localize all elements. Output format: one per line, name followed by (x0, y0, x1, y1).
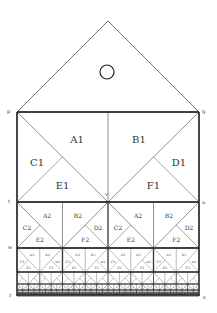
region-label-c1: C1 (30, 157, 44, 168)
sub-diagonal-left (63, 278, 69, 284)
point-label-t: t (8, 199, 10, 204)
point-label-v: v (105, 192, 108, 197)
roof-triangle (17, 21, 199, 112)
region-label-e3: E3 (26, 266, 30, 270)
region-label-a3: A3 (165, 253, 170, 257)
region-label-d2: D2 (185, 224, 194, 231)
region-label-f1: F1 (147, 180, 160, 191)
sub-diagonal-right (151, 287, 154, 290)
region-label-e3: E3 (72, 266, 76, 270)
sub-diagonal-right (94, 287, 97, 290)
sub-diagonal-left (51, 287, 54, 290)
subdivision-levels (17, 112, 199, 296)
region-label-a3: A3 (74, 253, 79, 257)
sub-diagonal-left (40, 287, 43, 290)
region-label-e2: E2 (36, 236, 44, 243)
vertex-v-dot (106, 201, 109, 204)
region-label-c3: C3 (65, 260, 69, 264)
sub-diagonal-left (154, 278, 160, 284)
region-label-e3: E3 (163, 266, 167, 270)
region-label-c3: C3 (156, 260, 160, 264)
sub-diagonal-left (142, 287, 145, 290)
level-5 (17, 284, 199, 290)
level-8 (17, 295, 199, 297)
sub-diagonal-left (131, 287, 134, 290)
point-label-s: s (203, 295, 206, 300)
sub-diagonal-left (63, 287, 66, 290)
sub-diagonal-right (80, 278, 86, 284)
region-label-f3: F3 (140, 266, 144, 270)
region-label-b3: B3 (45, 253, 49, 257)
region-label-f3: F3 (186, 266, 190, 270)
level-6 (17, 290, 199, 293)
sub-diagonal-right (128, 287, 131, 290)
sub-diagonal-right (185, 287, 188, 290)
sub-diagonal-right (26, 287, 29, 290)
sub-diagonal-right (117, 287, 120, 290)
sub-diagonal-left (176, 278, 182, 284)
sub-diagonal-right (102, 278, 108, 284)
point-label-r: r (9, 293, 11, 298)
sub-diagonal-left (108, 287, 111, 290)
point-label-p: p (7, 109, 10, 114)
sub-diagonal-right (34, 278, 40, 284)
sub-diagonal-left (131, 278, 137, 284)
region-label-a1: A1 (69, 134, 84, 145)
sub-diagonal-left (85, 287, 88, 290)
sub-diagonal-left (85, 278, 91, 284)
level-3 (17, 248, 199, 272)
sub-diagonal-left (28, 287, 31, 290)
sub-diagonal-left (188, 287, 191, 290)
region-label-e2: E2 (127, 236, 135, 243)
sub-diagonal-right (48, 287, 51, 290)
region-label-b1: B1 (132, 134, 146, 145)
region-label-e3: E3 (117, 266, 121, 270)
point-label-q: q (202, 109, 205, 114)
region-label-d3: D3 (146, 260, 151, 264)
sub-diagonal-right (162, 287, 165, 290)
sub-diagonal-right (139, 287, 142, 290)
region-label-f2: F2 (81, 236, 89, 243)
region-label-d3: D3 (101, 260, 106, 264)
sub-diagonal-left (74, 287, 77, 290)
region-label-d2: D2 (94, 224, 103, 231)
region-label-b3: B3 (182, 253, 186, 257)
region-label-a2: A2 (133, 212, 142, 219)
sub-diagonal-left (40, 278, 46, 284)
region-label-d3: D3 (192, 260, 197, 264)
region-label-b2: B2 (74, 212, 82, 219)
roof-edges (17, 21, 199, 112)
sub-diagonal-left (154, 287, 157, 290)
sub-diagonal-right (125, 278, 131, 284)
region-label-c3: C3 (20, 260, 24, 264)
sub-diagonal-left (165, 287, 168, 290)
sub-diagonal-left (17, 278, 23, 284)
region-label-b3: B3 (136, 253, 140, 257)
region-label-f3: F3 (95, 266, 99, 270)
region-label-a3: A3 (29, 253, 34, 257)
region-label-b2: B2 (165, 212, 173, 219)
sub-diagonal-right (57, 278, 63, 284)
roof-circle (100, 65, 114, 79)
level-4 (17, 272, 199, 284)
sub-diagonal-right (148, 278, 154, 284)
subdivision-diagram: A1B1C1D1E1F1A2B2C2D2E2F2A2B2C2D2E2F2A3B3… (0, 0, 217, 313)
sub-diagonal-left (108, 278, 114, 284)
region-label-d1: D1 (172, 157, 186, 168)
region-label-f3: F3 (49, 266, 53, 270)
sub-diagonal-right (82, 287, 85, 290)
point-label-u: u (202, 200, 205, 205)
region-label-e1: E1 (56, 180, 70, 191)
sub-diagonal-right (71, 287, 74, 290)
region-label-d3: D3 (55, 260, 60, 264)
sub-diagonal-left (97, 287, 100, 290)
sub-diagonal-right (60, 287, 63, 290)
region-label-b3: B3 (91, 253, 95, 257)
sub-diagonal-right (173, 287, 176, 290)
region-label-a2: A2 (42, 212, 51, 219)
sub-diagonal-left (176, 287, 179, 290)
region-label-c2: C2 (23, 224, 32, 231)
region-label-c3: C3 (111, 260, 115, 264)
circle-icon (100, 65, 114, 79)
region-label-a3: A3 (120, 253, 125, 257)
